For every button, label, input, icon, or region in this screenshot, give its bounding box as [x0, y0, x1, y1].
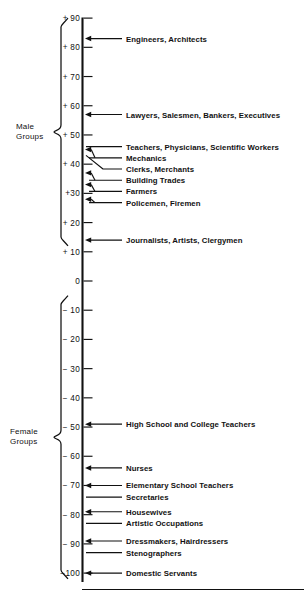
group-label-female: FemaleGroups [10, 427, 38, 447]
axis-tick-50: + 50 [44, 130, 80, 139]
axis-tick-0: 0 [44, 277, 80, 286]
occupation-label: High School and College Teachers [126, 420, 255, 429]
axis-tick-70: + 70 [44, 72, 80, 81]
axis-tick--40: − 40 [44, 393, 80, 402]
occupation-label: Clerks, Merchants [126, 165, 194, 174]
occupation-label: Elementary School Teachers [126, 481, 233, 490]
occupation-label: Mechanics [126, 153, 166, 162]
axis-tick-60: + 60 [44, 101, 80, 110]
occupation-label: Farmers [126, 187, 157, 196]
group-label-male-line1: Male [16, 122, 34, 131]
occupation-label: Dressmakers, Hairdressers [126, 536, 228, 545]
occupation-label: Lawyers, Salesmen, Bankers, Executives [126, 110, 280, 119]
occupation-label: Domestic Servants [126, 569, 197, 578]
axis-tick-10: + 10 [44, 247, 80, 256]
occupation-label: Housewives [126, 507, 172, 516]
occupation-label: Journalists, Artists, Clergymen [126, 236, 243, 245]
group-label-female-line2: Groups [10, 437, 37, 446]
occupation-label: Policemen, Firemen [126, 198, 201, 207]
occupation-label: Engineers, Architects [126, 34, 207, 43]
axis-tick-90: + 90 [44, 14, 80, 23]
label-connectors [85, 36, 122, 576]
axis-tick--80: − 80 [44, 510, 80, 519]
axis-tick--100: −100 [44, 569, 80, 578]
axis-tick--90: − 90 [44, 539, 80, 548]
axis-tick-40: + 40 [44, 160, 80, 169]
axis-tick--60: − 60 [44, 452, 80, 461]
occupation-label: Building Trades [126, 176, 185, 185]
occupation-label: Artistic Occupations [126, 519, 203, 528]
occupation-label: Stenographers [126, 548, 182, 557]
axis-tick--30: − 30 [44, 364, 80, 373]
group-label-female-line1: Female [10, 427, 38, 436]
axis-tick-80: + 80 [44, 43, 80, 52]
axis-tick--70: − 70 [44, 481, 80, 490]
axis-tick-30: +30 [44, 189, 80, 198]
group-label-male: MaleGroups [16, 122, 43, 142]
axis-tick--20: − 20 [44, 335, 80, 344]
axis-tick-20: + 20 [44, 218, 80, 227]
occupation-label: Nurses [126, 463, 153, 472]
occupation-label: Secretaries [126, 493, 169, 502]
axis-tick--10: − 10 [44, 306, 80, 315]
axis-tick--50: − 50 [44, 423, 80, 432]
scale-figure: + 90+ 80+ 70+ 60+ 50+ 40+30+ 20+ 100− 10… [0, 0, 306, 603]
occupation-label: Teachers, Physicians, Scientific Workers [126, 142, 279, 151]
group-label-male-line2: Groups [16, 132, 43, 141]
